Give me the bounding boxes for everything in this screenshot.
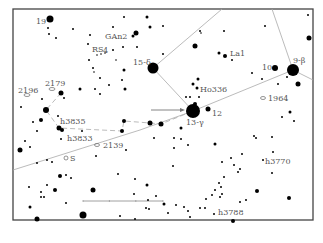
star [94, 88, 96, 90]
star [112, 49, 114, 51]
star-label: 15-δ [133, 58, 151, 67]
star [24, 140, 26, 142]
star [47, 27, 49, 29]
scale-bar [83, 200, 163, 202]
star [180, 127, 183, 130]
star [167, 212, 169, 214]
star [281, 116, 283, 118]
star [180, 138, 182, 140]
star [231, 59, 233, 61]
star [175, 204, 177, 206]
star [89, 34, 91, 36]
star [189, 96, 191, 98]
star [99, 93, 101, 95]
constellation-line [153, 68, 193, 111]
star [41, 98, 43, 100]
star [253, 135, 255, 137]
star [205, 198, 207, 200]
star-label: 1964 [268, 94, 288, 103]
star [43, 196, 45, 198]
star [223, 30, 225, 32]
star [92, 67, 94, 69]
star [239, 168, 241, 170]
star [189, 216, 191, 218]
star [46, 159, 48, 161]
star [148, 208, 150, 210]
constellation-lines [13, 9, 313, 170]
star [145, 207, 147, 209]
star [241, 153, 243, 155]
star [186, 104, 200, 118]
star [271, 172, 273, 174]
star [80, 212, 87, 219]
star [296, 82, 301, 87]
star [173, 147, 175, 149]
star-label: Ho336 [200, 85, 227, 94]
star [99, 77, 101, 79]
star [108, 84, 110, 86]
star [119, 215, 121, 217]
chart-frame [13, 9, 313, 220]
constellation-line [272, 9, 293, 70]
star [120, 129, 124, 133]
star [153, 137, 155, 139]
star [72, 28, 74, 30]
star-label: 19 [36, 17, 46, 26]
star [132, 35, 135, 38]
star [121, 79, 123, 81]
pointer-arrow-icon [151, 108, 185, 112]
star [155, 195, 157, 197]
star [204, 207, 206, 209]
star [193, 102, 197, 106]
star [57, 115, 59, 117]
star [60, 138, 62, 140]
star [87, 43, 89, 45]
star [287, 196, 291, 200]
star [307, 14, 309, 16]
star [122, 119, 126, 123]
star [148, 121, 153, 126]
star [40, 196, 42, 198]
star [261, 78, 263, 80]
star [192, 83, 195, 86]
star-chart: 19GAn2RS415-δLa1109-βHo33619642196217912… [0, 0, 323, 243]
star [133, 193, 135, 195]
star [59, 91, 64, 96]
open-cluster-icon [64, 156, 68, 160]
star [146, 16, 149, 19]
star [220, 186, 222, 188]
star [221, 193, 223, 195]
star [264, 25, 266, 27]
star [237, 171, 239, 173]
star [162, 25, 164, 27]
star [239, 201, 241, 203]
star [35, 217, 40, 222]
star [272, 65, 278, 71]
star [196, 87, 199, 90]
star-label: 2179 [45, 79, 65, 88]
star [271, 136, 273, 138]
star [32, 121, 34, 123]
star [91, 188, 96, 193]
star [262, 159, 264, 161]
star [221, 161, 223, 163]
star [251, 72, 253, 74]
star [79, 88, 82, 91]
open-cluster-icon [261, 97, 266, 100]
star [159, 122, 164, 127]
star [272, 151, 274, 153]
star [149, 26, 152, 29]
star [46, 184, 48, 186]
star [287, 64, 299, 76]
star [172, 165, 174, 167]
star [213, 213, 215, 215]
star [58, 174, 62, 178]
star [193, 44, 198, 49]
star-label: GAn2 [105, 32, 127, 41]
star [187, 210, 189, 212]
star [134, 178, 136, 180]
star-label: La1 [230, 49, 245, 58]
star [219, 196, 221, 198]
star [198, 96, 200, 98]
star [163, 203, 166, 206]
